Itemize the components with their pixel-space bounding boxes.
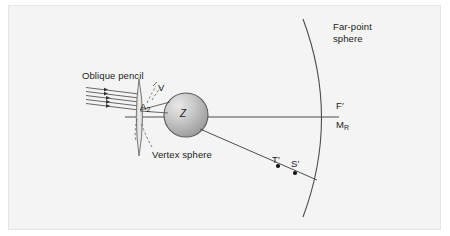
label-far-point-sphere: Far-pointsphere [333,21,372,44]
label-z: Z [180,108,186,120]
oblique-pencil-rays [86,88,139,111]
label-s-prime: S′ [291,158,299,170]
mr-base: M [336,119,344,130]
oblique-refracted-ray [200,129,317,180]
v-tick [153,82,157,86]
label-a2: A2 [140,101,150,115]
mr-subscript: R [344,124,349,131]
vertex-sphere-arc [136,79,142,156]
a2-subscript: 2 [146,106,150,113]
label-f-prime: F′ [336,100,344,112]
label-v: V [158,82,164,94]
label-vertex-sphere: Vertex sphere [152,149,212,161]
far-point-line2: sphere [333,33,363,44]
diagram-canvas [0,0,450,236]
far-point-sphere-arc [303,19,322,217]
label-oblique-pencil: Oblique pencil [82,70,144,82]
point-marker-s-prime [293,171,297,175]
label-t-prime: T′ [272,154,280,166]
label-m-r: MR [336,119,349,133]
far-point-line1: Far-point [333,21,372,32]
figure-root: Far-pointsphere Oblique pencil V A2 Z Ve… [0,0,450,236]
